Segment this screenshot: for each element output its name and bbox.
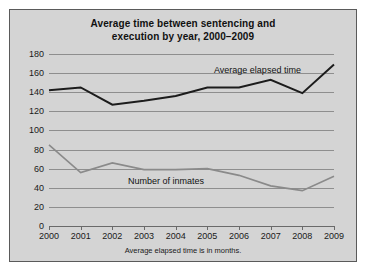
x-axis-tick-mark-2008 — [302, 226, 303, 230]
x-axis-tick-mark-2000 — [49, 226, 50, 230]
chart-title: Average time between sentencing and exec… — [10, 17, 356, 43]
chart-title-line-2: execution by year, 2000–2009 — [10, 30, 356, 43]
x-axis-tick-label-2003: 2003 — [134, 231, 154, 241]
y-axis-tick-label-160: 160 — [29, 68, 44, 78]
x-axis: 2000200120022003200420052006200720082009 — [49, 226, 334, 246]
x-axis-tick-label-2009: 2009 — [324, 231, 344, 241]
x-axis-tick-mark-2003 — [144, 226, 145, 230]
x-axis-tick-label-2004: 2004 — [166, 231, 186, 241]
x-axis-tick-mark-2004 — [176, 226, 177, 230]
x-axis-tick-label-2006: 2006 — [229, 231, 249, 241]
y-axis-tick-label-40: 40 — [34, 183, 44, 193]
annotation-average-elapsed-time: Average elapsed time — [214, 65, 301, 75]
y-axis-tick-label-120: 120 — [29, 106, 44, 116]
x-axis-tick-mark-2002 — [112, 226, 113, 230]
series-lines — [49, 54, 334, 226]
x-axis-tick-mark-2006 — [239, 226, 240, 230]
y-axis-tick-label-80: 80 — [34, 145, 44, 155]
chart-footnote: Average elapsed time is in months. — [10, 246, 356, 255]
x-axis-tick-mark-2005 — [207, 226, 208, 230]
y-axis-tick-label-140: 140 — [29, 87, 44, 97]
x-axis-tick-mark-2009 — [334, 226, 335, 230]
annotation-number-of-inmates: Number of inmates — [128, 176, 204, 186]
x-axis-tick-label-2008: 2008 — [292, 231, 312, 241]
chart-figure: Average time between sentencing and exec… — [9, 9, 357, 262]
y-axis-tick-label-20: 20 — [34, 202, 44, 212]
x-axis-tick-mark-2007 — [271, 226, 272, 230]
chart-title-line-1: Average time between sentencing and — [10, 17, 356, 30]
x-axis-tick-label-2007: 2007 — [261, 231, 281, 241]
y-axis-tick-label-60: 60 — [34, 164, 44, 174]
x-axis-tick-label-2002: 2002 — [102, 231, 122, 241]
y-axis-tick-label-100: 100 — [29, 125, 44, 135]
x-axis-tick-label-2000: 2000 — [39, 231, 59, 241]
plot-area: 020406080100120140160180 — [49, 54, 334, 226]
x-axis-tick-label-2001: 2001 — [71, 231, 91, 241]
y-axis-tick-label-0: 0 — [39, 221, 44, 231]
x-axis-tick-mark-2001 — [81, 226, 82, 230]
y-axis-tick-label-180: 180 — [29, 49, 44, 59]
x-axis-tick-label-2005: 2005 — [197, 231, 217, 241]
